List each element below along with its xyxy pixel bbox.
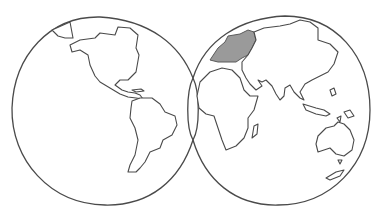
australia — [316, 122, 354, 156]
new-guinea — [344, 110, 354, 118]
madagascar — [252, 124, 258, 138]
new-zealand — [326, 170, 344, 180]
north-america — [70, 27, 143, 99]
world-map — [0, 0, 375, 216]
indonesia — [303, 104, 330, 116]
island-small — [337, 116, 341, 122]
western-hemisphere — [12, 17, 193, 205]
tasmania — [338, 160, 342, 164]
caribbean-islands — [132, 89, 144, 92]
eastern-hemisphere — [193, 16, 370, 205]
japan — [330, 88, 336, 96]
asia — [242, 20, 338, 100]
south-america — [128, 98, 177, 172]
